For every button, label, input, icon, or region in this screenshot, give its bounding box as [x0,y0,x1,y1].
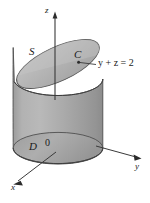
figure-canvas [0,0,150,203]
y-axis-arrowhead [134,154,142,160]
figure-oblique-cylinder: z S C y + z = 2 D 0 y x [0,0,150,203]
region-label-D: D [29,141,37,152]
y-axis [96,146,142,161]
origin-label: 0 [45,138,50,148]
plane-equation-label: y + z = 2 [98,58,134,68]
z-axis-arrowhead [53,12,58,19]
y-axis-label: y [135,162,139,171]
z-axis-label: z [45,6,49,15]
curve-label-C: C [74,49,81,60]
x-axis-label: x [11,183,15,192]
surface-label-S: S [29,46,35,57]
bottom-disk-region-D [13,132,103,163]
plane-leader-dot [77,61,80,64]
